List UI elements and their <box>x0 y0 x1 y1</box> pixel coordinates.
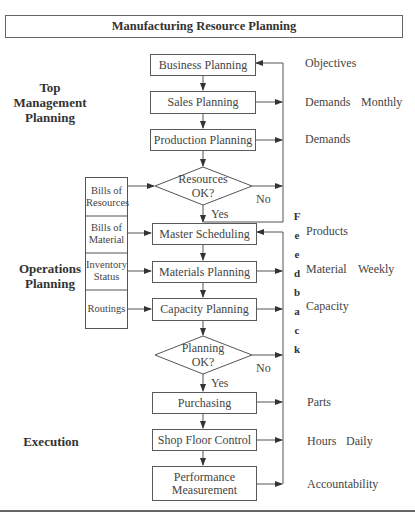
capacity-planning-box: Capacity Planning <box>152 298 257 321</box>
sales-planning-box: Sales Planning <box>150 91 256 114</box>
resources-ok-line1: Resources <box>163 172 243 186</box>
section-top-line2: Management <box>10 95 90 110</box>
bor-line2: Resources <box>86 197 127 209</box>
production-planning-box: Production Planning <box>150 129 256 151</box>
performance-line2: Measurement <box>172 484 237 497</box>
section-execution: Execution <box>20 434 82 449</box>
feedback-letter: a <box>292 305 302 317</box>
master-scheduling-box: Master Scheduling <box>152 223 257 245</box>
output-parts: Parts <box>307 395 331 410</box>
feedback-letter: d <box>292 267 302 279</box>
inv-line2: Status <box>86 271 127 283</box>
frequency-monthly: Monthly <box>361 95 402 110</box>
performance-line1: Performance <box>174 471 235 484</box>
output-products: Products <box>306 224 348 239</box>
bor-line1: Bills of <box>86 185 127 197</box>
frequency-daily: Daily <box>346 434 373 449</box>
routings: Routings <box>86 303 127 315</box>
inv-line1: Inventory <box>86 259 127 271</box>
section-top-management: Top Management Planning <box>10 80 90 125</box>
section-ops-line2: Planning <box>15 276 85 291</box>
feedback-letter: k <box>292 343 302 355</box>
feedback-letter: b <box>292 286 302 298</box>
materials-planning-box: Materials Planning <box>152 261 257 283</box>
no-label-planning: No <box>256 361 271 376</box>
purchasing-box: Purchasing <box>152 392 257 414</box>
performance-measurement-box: Performance Measurement <box>152 466 257 501</box>
output-objectives: Objectives <box>305 56 356 71</box>
diagram-title: Manufacturing Resource Planning <box>6 16 402 37</box>
bills-of-resources: Bills of Resources <box>86 185 127 209</box>
shop-floor-control-box: Shop Floor Control <box>152 429 257 451</box>
bom-line1: Bills of <box>86 222 127 234</box>
output-accountability: Accountability <box>307 477 378 492</box>
yes-label-planning: Yes <box>211 376 228 391</box>
no-label-resources: No <box>256 192 271 207</box>
planning-ok-line1: Planning <box>163 341 243 355</box>
output-material: Material <box>306 262 347 277</box>
section-operations: Operations Planning <box>15 261 85 291</box>
planning-ok-line2: OK? <box>163 355 243 369</box>
feedback-letter: c <box>292 324 302 336</box>
bills-of-material: Bills of Material <box>86 222 127 246</box>
feedback-letter: e <box>292 229 302 241</box>
inventory-status: Inventory Status <box>86 259 127 283</box>
output-hours: Hours <box>307 434 336 449</box>
section-top-line1: Top <box>10 80 90 95</box>
feedback-letter: F <box>292 210 302 222</box>
frequency-weekly: Weekly <box>358 262 394 277</box>
section-top-line3: Planning <box>10 110 90 125</box>
bom-line2: Material <box>86 234 127 246</box>
resources-ok-line2: OK? <box>163 186 243 200</box>
yes-label-resources: Yes <box>211 207 228 222</box>
output-demands-production: Demands <box>305 132 350 147</box>
output-demands-sales: Demands <box>305 95 350 110</box>
feedback-letter: e <box>292 248 302 260</box>
resources-ok-decision: Resources OK? <box>163 172 243 200</box>
planning-ok-decision: Planning OK? <box>163 341 243 369</box>
section-ops-line1: Operations <box>15 261 85 276</box>
business-planning-box: Business Planning <box>150 54 256 76</box>
output-capacity: Capacity <box>306 299 349 314</box>
